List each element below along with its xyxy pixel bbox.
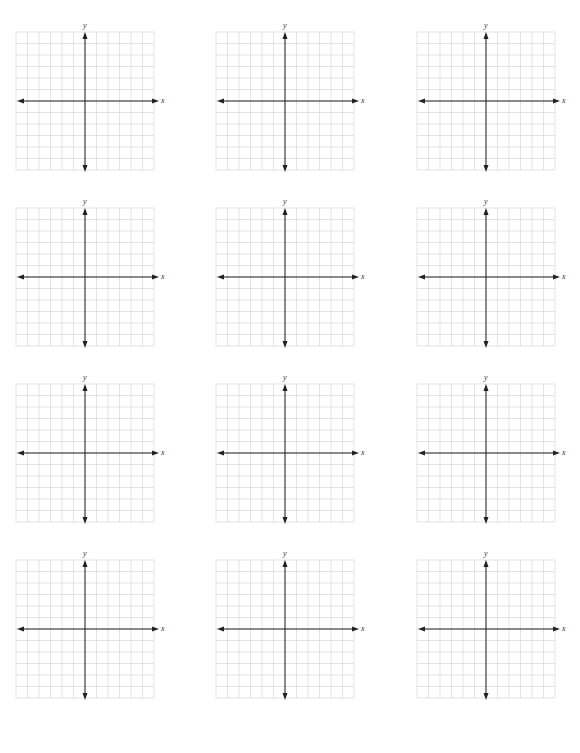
arrow-up-icon [484, 560, 489, 567]
arrow-down-icon [283, 693, 288, 700]
axes [17, 32, 159, 172]
grid-and-axes [16, 560, 176, 730]
arrow-down-icon [83, 341, 88, 348]
x-axis-label: x [562, 625, 566, 633]
grid-and-axes [216, 384, 376, 554]
y-axis-label: y [83, 22, 87, 30]
coordinate-plane-6: y x [417, 208, 577, 378]
y-axis-label: y [484, 550, 488, 558]
grid-and-axes [216, 208, 376, 378]
x-axis-label: x [562, 273, 566, 281]
arrow-down-icon [484, 341, 489, 348]
grid-and-axes [216, 560, 376, 730]
arrow-left-icon [17, 99, 24, 104]
grid-and-axes [417, 208, 577, 378]
arrow-up-icon [283, 208, 288, 215]
arrow-up-icon [484, 208, 489, 215]
arrow-up-icon [83, 560, 88, 567]
arrow-right-icon [352, 275, 359, 280]
coordinate-plane-5: y x [216, 208, 376, 378]
y-axis-label: y [484, 22, 488, 30]
coordinate-plane-11: y x [216, 560, 376, 730]
arrow-right-icon [553, 275, 560, 280]
x-axis-label: x [361, 97, 365, 105]
x-axis-label: x [161, 449, 165, 457]
arrow-down-icon [484, 165, 489, 172]
y-axis-label: y [83, 550, 87, 558]
arrow-right-icon [352, 99, 359, 104]
grid-and-axes [417, 32, 577, 202]
arrow-down-icon [83, 693, 88, 700]
axes [17, 208, 159, 348]
x-axis-label: x [161, 97, 165, 105]
x-axis-label: x [161, 273, 165, 281]
arrow-up-icon [83, 32, 88, 39]
x-axis-label: x [562, 97, 566, 105]
arrow-left-icon [217, 275, 224, 280]
x-axis-label: x [161, 625, 165, 633]
arrow-down-icon [283, 341, 288, 348]
arrow-up-icon [283, 384, 288, 391]
y-axis-label: y [484, 198, 488, 206]
arrow-left-icon [17, 275, 24, 280]
arrow-up-icon [283, 560, 288, 567]
axes [418, 32, 560, 172]
axes [418, 560, 560, 700]
x-axis-label: x [361, 449, 365, 457]
arrow-up-icon [83, 208, 88, 215]
axes [17, 560, 159, 700]
arrow-down-icon [83, 517, 88, 524]
coordinate-plane-7: y x [16, 384, 176, 554]
arrow-left-icon [17, 451, 24, 456]
grid-and-axes [16, 384, 176, 554]
arrow-down-icon [484, 693, 489, 700]
arrow-right-icon [553, 627, 560, 632]
grid-and-axes [216, 32, 376, 202]
y-axis-label: y [283, 374, 287, 382]
coordinate-plane-1: y x [16, 32, 176, 202]
axes [217, 384, 359, 524]
coordinate-plane-10: y x [16, 560, 176, 730]
grid-and-axes [16, 208, 176, 378]
axes [418, 384, 560, 524]
coordinate-plane-4: y x [16, 208, 176, 378]
arrow-left-icon [418, 627, 425, 632]
coordinate-plane-12: y x [417, 560, 577, 730]
arrow-left-icon [17, 627, 24, 632]
grid-and-axes [417, 560, 577, 730]
coordinate-plane-8: y x [216, 384, 376, 554]
arrow-up-icon [484, 32, 489, 39]
arrow-right-icon [152, 627, 159, 632]
arrow-down-icon [484, 517, 489, 524]
axes [17, 384, 159, 524]
y-axis-label: y [83, 198, 87, 206]
arrow-right-icon [152, 275, 159, 280]
coordinate-plane-9: y x [417, 384, 577, 554]
coordinate-plane-3: y x [417, 32, 577, 202]
arrow-down-icon [83, 165, 88, 172]
arrow-left-icon [217, 451, 224, 456]
arrow-left-icon [217, 627, 224, 632]
coordinate-plane-2: y x [216, 32, 376, 202]
arrow-up-icon [484, 384, 489, 391]
arrow-right-icon [553, 451, 560, 456]
arrow-right-icon [352, 627, 359, 632]
arrow-right-icon [352, 451, 359, 456]
axes [217, 32, 359, 172]
y-axis-label: y [283, 22, 287, 30]
arrow-down-icon [283, 165, 288, 172]
x-axis-label: x [361, 625, 365, 633]
axes [418, 208, 560, 348]
grid-and-axes [417, 384, 577, 554]
axes [217, 208, 359, 348]
arrow-right-icon [553, 99, 560, 104]
arrow-left-icon [418, 451, 425, 456]
grid-and-axes [16, 32, 176, 202]
arrow-up-icon [283, 32, 288, 39]
x-axis-label: x [562, 449, 566, 457]
y-axis-label: y [283, 550, 287, 558]
axes [217, 560, 359, 700]
y-axis-label: y [283, 198, 287, 206]
y-axis-label: y [83, 374, 87, 382]
arrow-down-icon [283, 517, 288, 524]
